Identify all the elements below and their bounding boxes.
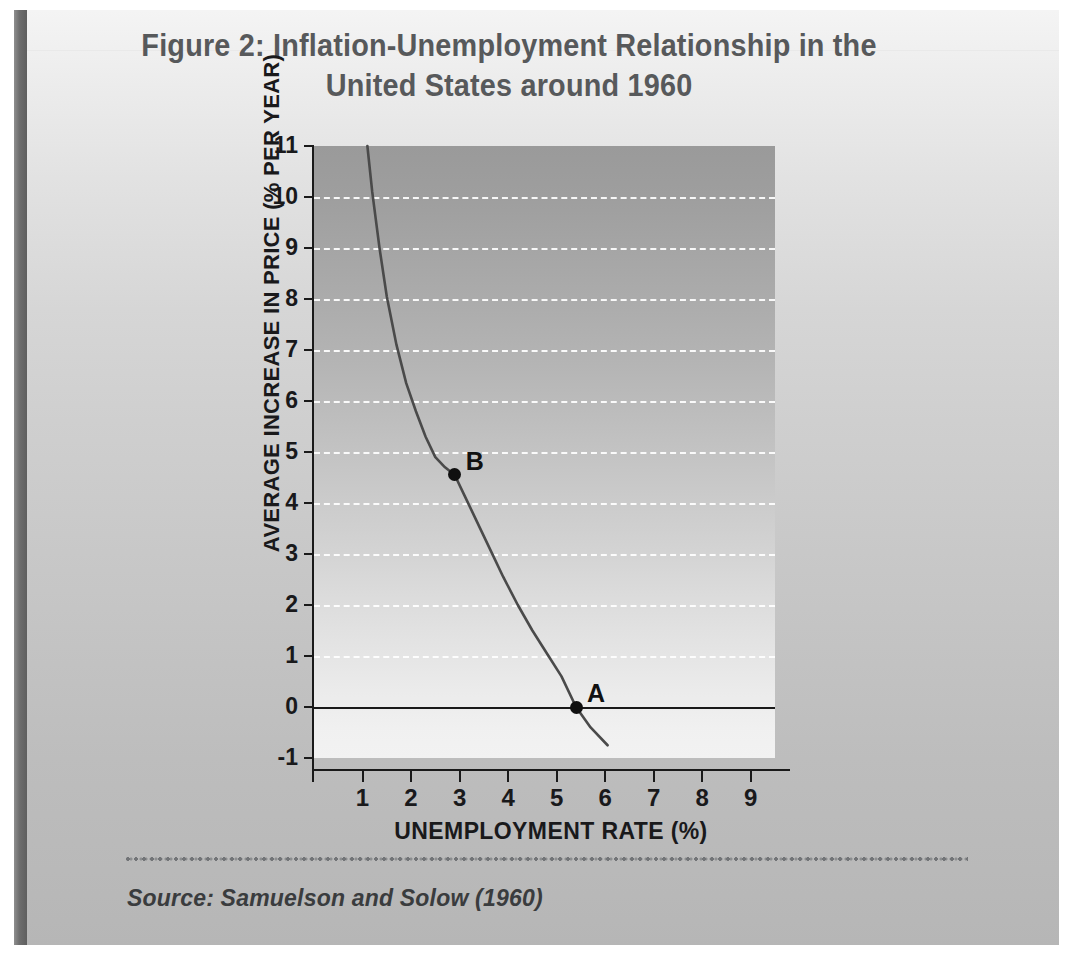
figure-title-line-1: Figure 2: Inflation-Unemployment Relatio… xyxy=(123,26,895,66)
y-tick-0 xyxy=(304,706,313,708)
figure-left-spine xyxy=(14,10,27,945)
figure-panel: Figure 2: Inflation-Unemployment Relatio… xyxy=(14,10,1059,945)
x-tick-label-7: 7 xyxy=(634,786,674,810)
x-tick-6 xyxy=(604,771,606,782)
y-tick-label-6: 6 xyxy=(236,389,298,412)
y-tick-label-10: 10 xyxy=(236,185,298,208)
y-tick-10 xyxy=(304,196,313,198)
x-tick-label-8: 8 xyxy=(682,786,722,810)
datapoint-label-b: B xyxy=(466,449,484,474)
datapoint-label-a: A xyxy=(587,681,605,706)
x-axis-title: UNEMPLOYMENT RATE (%) xyxy=(312,818,790,845)
y-tick-label-4: 4 xyxy=(236,491,298,514)
y-tick-4 xyxy=(304,502,313,504)
y-tick-3 xyxy=(304,553,313,555)
x-tick-9 xyxy=(750,771,752,782)
y-tick-label-11: 11 xyxy=(236,134,298,157)
x-tick-label-5: 5 xyxy=(537,786,577,810)
y-tick-9 xyxy=(304,247,313,249)
x-tick-label-4: 4 xyxy=(488,786,528,810)
y-tick-2 xyxy=(304,604,313,606)
y-tick-label-2: 2 xyxy=(236,593,298,616)
x-tick-label-2: 2 xyxy=(391,786,431,810)
x-tick-label-3: 3 xyxy=(440,786,480,810)
y-tick-label-5: 5 xyxy=(236,440,298,463)
y-tick--1 xyxy=(304,757,313,759)
x-tick-8 xyxy=(701,771,703,782)
y-tick-label-7: 7 xyxy=(236,338,298,361)
y-tick-8 xyxy=(304,298,313,300)
y-tick-label--1: -1 xyxy=(236,746,298,769)
x-tick-5 xyxy=(556,771,558,782)
x-tick-label-9: 9 xyxy=(731,786,771,810)
y-tick-label-1: 1 xyxy=(236,644,298,667)
y-tick-1 xyxy=(304,655,313,657)
x-tick-label-1: 1 xyxy=(343,786,383,810)
y-tick-7 xyxy=(304,349,313,351)
y-tick-5 xyxy=(304,451,313,453)
figure-title: Figure 2: Inflation-Unemployment Relatio… xyxy=(94,26,924,106)
source-note: Source: Samuelson and Solow (1960) xyxy=(127,885,543,912)
footer-dotted-divider xyxy=(126,855,968,863)
x-tick-3 xyxy=(459,771,461,782)
x-tick-4 xyxy=(507,771,509,782)
figure-title-line-2: United States around 1960 xyxy=(123,66,895,106)
phillips-curve-plot xyxy=(294,130,814,790)
phillips-curve-line xyxy=(367,146,607,745)
x-tick-label-6: 6 xyxy=(585,786,625,810)
x-tick-7 xyxy=(653,771,655,782)
y-tick-label-0: 0 xyxy=(236,695,298,718)
y-tick-6 xyxy=(304,400,313,402)
y-tick-label-9: 9 xyxy=(236,236,298,259)
x-tick-2 xyxy=(410,771,412,782)
y-tick-label-8: 8 xyxy=(236,287,298,310)
datapoint-a xyxy=(570,701,583,714)
x-axis-origin-tick xyxy=(312,771,314,782)
y-tick-label-3: 3 xyxy=(236,542,298,565)
y-tick-11 xyxy=(304,145,313,147)
x-tick-1 xyxy=(362,771,364,782)
